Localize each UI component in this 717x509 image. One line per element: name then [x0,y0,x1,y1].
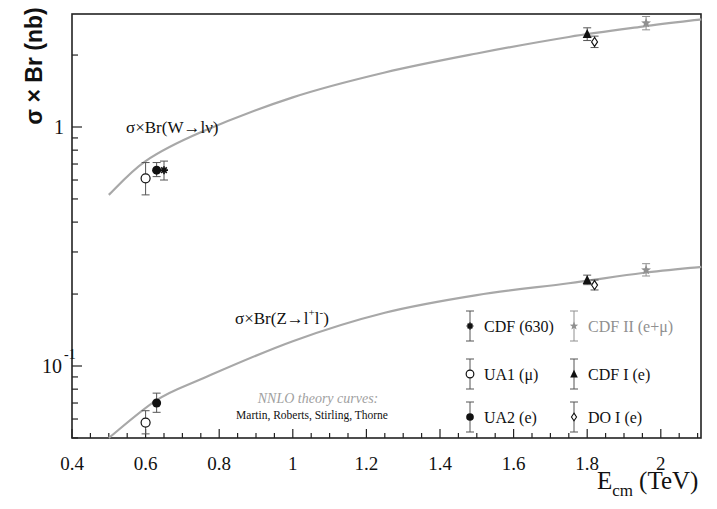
legend-label: DO I (e) [588,409,642,427]
filled-triangle-icon [570,370,578,378]
data-point [152,163,161,177]
open-circle-icon [141,174,150,183]
filled-circle-icon [152,166,161,175]
legend-item: UA1 (μ) [466,359,538,389]
open-diamond-icon [592,37,598,46]
legend-label: UA2 (e) [484,409,537,427]
data-point [591,36,599,47]
theory-note-authors: Martin, Roberts, Stirling, Thorne [236,409,388,422]
legend-item: UA2 (e) [466,402,537,432]
data-point [160,161,168,180]
w-curve-label: σ×Br(W→lν) [126,118,219,137]
open-circle-icon [141,418,150,427]
asterisk-icon [467,323,474,330]
filled-circle-icon [152,399,161,408]
open-circle-icon [466,370,474,378]
data-point [141,163,150,195]
x-tick-label: 1.6 [502,453,526,474]
open-diamond-icon [592,281,598,290]
data-point [591,280,599,290]
data-point [641,16,651,29]
legend-item: CDF I (e) [570,359,650,389]
open-diamond-icon [571,413,576,421]
theory-curve [109,19,701,194]
theory-note-title: NNLO theory curves: [257,391,379,406]
legend-label: CDF (630) [484,318,554,336]
x-tick-label: 1.8 [575,453,599,474]
legend-item: CDF II (e+μ) [570,311,673,341]
legend-label: CDF I (e) [588,366,650,384]
data-point [641,264,651,276]
y-tick-label: 10 [42,355,62,377]
x-tick-label: 1 [288,453,298,474]
y-axis-label: σ × Br (nb) [21,7,47,124]
x-tick-label: 0.8 [207,453,231,474]
x-tick-label: 0.6 [134,453,158,474]
data-point [152,393,161,412]
y-tick-exponent: -1 [64,347,76,362]
svg-text:Ecm(TeV): Ecm(TeV) [597,467,698,500]
asterisk-icon [160,166,168,174]
y-tick-label: 1 [54,116,64,138]
x-axis-label: Ecm(TeV) [597,467,698,500]
legend-item: CDF (630) [466,311,554,341]
filled-circle-icon [466,413,474,421]
z-curve-label: σ×Br(Z→l+l-) [235,306,329,328]
data-point [141,411,150,434]
legend: CDF (630)CDF II (e+μ)UA1 (μ)CDF I (e)UA2… [466,311,673,432]
chart: 0.40.60.811.21.41.61.82110-1 σ × Br (nb)… [0,0,717,509]
x-tick-label: 1.4 [428,453,452,474]
legend-label: UA1 (μ) [484,366,538,384]
legend-item: DO I (e) [570,402,642,432]
x-tick-label: 0.4 [60,453,84,474]
legend-label: CDF II (e+μ) [588,318,673,336]
x-tick-label: 1.2 [355,453,379,474]
